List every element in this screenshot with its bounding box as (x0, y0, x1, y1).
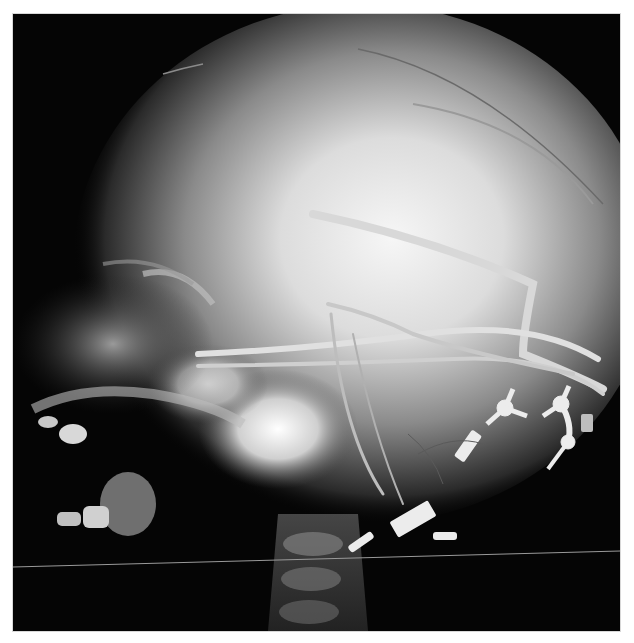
mandible (100, 472, 156, 536)
tooth (38, 416, 58, 428)
lateral-skull-radiograph (13, 14, 620, 631)
xray-film (13, 14, 620, 631)
tooth (57, 512, 81, 526)
tooth (83, 506, 109, 528)
tooth (59, 424, 87, 444)
cervical-spine (268, 514, 368, 631)
